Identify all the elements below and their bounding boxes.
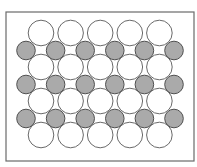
small-atom-circle bbox=[165, 109, 184, 128]
small-atom-circle bbox=[106, 41, 125, 60]
small-atom-circle bbox=[106, 109, 125, 128]
small-atom-circle bbox=[76, 109, 95, 128]
large-atom-circle bbox=[117, 20, 143, 46]
small-atom-circle bbox=[46, 41, 65, 60]
small-atom-circle bbox=[165, 41, 184, 60]
lattice-diagram bbox=[0, 0, 197, 167]
small-atom-circle bbox=[17, 75, 36, 94]
small-atom-circle bbox=[46, 109, 65, 128]
small-atom-circle bbox=[76, 75, 95, 94]
small-atom-circle bbox=[106, 75, 125, 94]
small-atom-circle bbox=[135, 109, 154, 128]
large-atom-circle bbox=[87, 20, 113, 46]
small-atom-circle bbox=[135, 75, 154, 94]
small-atom-circle bbox=[17, 41, 36, 60]
small-atom-circle bbox=[46, 75, 65, 94]
large-atom-circle bbox=[58, 20, 84, 46]
small-atom-circle bbox=[165, 75, 184, 94]
large-atom-circle bbox=[147, 20, 173, 46]
small-atom-circle bbox=[76, 41, 95, 60]
small-atom-circle bbox=[17, 109, 36, 128]
small-atom-circle bbox=[135, 41, 154, 60]
large-atom-circle bbox=[28, 20, 54, 46]
